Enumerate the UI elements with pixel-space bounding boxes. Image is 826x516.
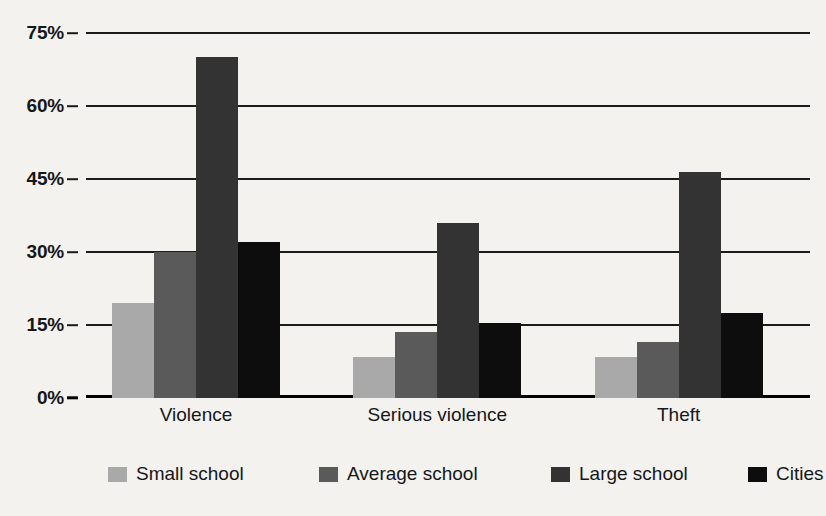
legend-swatch-icon [319,467,338,482]
y-tick-mark [67,396,78,399]
legend-label: Large school [579,463,688,485]
bar [196,57,238,398]
x-axis: ViolenceSerious violenceTheft [86,404,810,438]
bar-group [86,33,327,398]
bar-chart: 0%15%30%45%60%75% ViolenceSerious violen… [0,0,826,516]
y-tick-label: 30% [27,241,64,263]
legend-label: Average school [347,463,478,485]
bar [595,357,637,398]
x-axis-label: Theft [657,404,700,426]
bar-groups [86,33,810,398]
legend-item: Average school [319,463,478,485]
bar [395,332,437,398]
legend-swatch-icon [551,467,570,482]
bar [479,323,521,398]
chart-legend: Small schoolAverage schoolLarge schoolCi… [86,459,810,489]
bar [154,252,196,398]
bar [353,357,395,398]
y-tick-mark [67,178,78,180]
legend-item: Cities [748,463,824,485]
legend-item: Large school [551,463,688,485]
bar [679,172,721,398]
legend-swatch-icon [748,467,767,482]
y-axis: 0%15%30%45%60%75% [0,33,78,398]
y-tick-label: 0% [37,387,64,409]
y-tick-label: 60% [27,95,64,117]
bar [112,303,154,398]
bar-group [569,33,810,398]
legend-label: Cities [776,463,824,485]
bar [437,223,479,398]
y-tick-label: 15% [27,314,64,336]
bar-group [327,33,568,398]
legend-item: Small school [108,463,244,485]
x-axis-label: Violence [160,404,233,426]
y-tick-mark [67,324,78,326]
legend-swatch-icon [108,467,127,482]
x-axis-label: Serious violence [368,404,507,426]
y-tick-mark [67,105,78,107]
y-tick-mark [67,251,78,253]
y-tick-mark [67,32,78,34]
bar [238,242,280,398]
legend-label: Small school [136,463,244,485]
bar [637,342,679,398]
plot-area [86,33,810,398]
y-tick-label: 45% [27,168,64,190]
bar [721,313,763,398]
y-tick-label: 75% [27,22,64,44]
